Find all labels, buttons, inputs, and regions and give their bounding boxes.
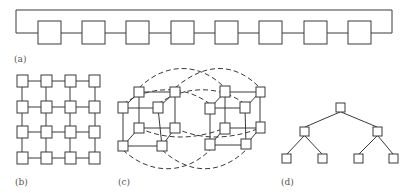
ring-node [38, 21, 61, 44]
right-cube [205, 86, 265, 150]
panel-label-c: (c) [118, 177, 130, 187]
tree-leaf-node [389, 154, 398, 163]
tree-leaf-node [354, 154, 363, 163]
network-topologies-figure: (a) (b) [0, 0, 412, 193]
tree-node [373, 127, 382, 136]
ring-node [348, 21, 371, 44]
ring-node [215, 21, 238, 44]
mesh-nodes [17, 75, 100, 164]
left-cube [118, 87, 180, 151]
panel-c-hypercube: (c) [118, 69, 265, 188]
tree-root-node [336, 103, 345, 112]
panel-b-mesh: (b) [15, 75, 100, 187]
tree-leaf-node [318, 154, 327, 163]
panel-label-b: (b) [15, 177, 28, 187]
ring-node [82, 21, 105, 44]
panel-d-tree: (d) [281, 103, 398, 187]
hypercube-dashed-links [123, 69, 260, 169]
ring-node [304, 21, 327, 44]
ring-wraparound-link [16, 10, 392, 33]
panel-a-ring: (a) [14, 10, 392, 64]
panel-label-a: (a) [14, 54, 26, 64]
tree-node [300, 127, 309, 136]
tree-leaf-node [282, 154, 291, 163]
ring-node [259, 21, 282, 44]
panel-label-d: (d) [281, 177, 294, 187]
ring-node [126, 21, 149, 44]
ring-node [171, 21, 194, 44]
